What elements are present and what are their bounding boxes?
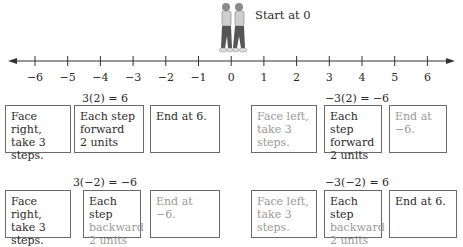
box-text-line: 2 units <box>80 136 138 149</box>
box-text-line: 2 units <box>89 234 135 247</box>
box-text-line: take 3 steps. <box>11 221 65 247</box>
box-text-line: Each step <box>330 110 376 136</box>
step-box: Each stepforward2 units <box>74 105 144 153</box>
box-text-line: 2 units <box>330 234 376 247</box>
box-text-line: Each step <box>330 195 376 221</box>
equation-label: −3(2) = −6 <box>312 92 402 105</box>
step-box: End at −6. <box>150 190 220 238</box>
step-box: Each stepbackward2 units <box>324 190 382 238</box>
tick-label: 0 <box>219 71 243 84</box>
tick-label: 1 <box>252 71 276 84</box>
tick-label: 4 <box>350 71 374 84</box>
box-text-line: forward <box>80 123 138 136</box>
left-arrow-icon <box>8 58 17 64</box>
tick-label: −4 <box>88 71 112 84</box>
box-text-line: End at −6. <box>395 110 441 136</box>
step-box: End at 6. <box>389 190 457 238</box>
number-line <box>0 50 463 90</box>
box-text-line: backward <box>330 221 376 234</box>
box-text-line: Face right, <box>11 110 65 136</box>
tick-label: 2 <box>285 71 309 84</box>
box-text-line: take 3 steps. <box>11 136 65 162</box>
tick-label: −5 <box>56 71 80 84</box>
tick-label: 3 <box>317 71 341 84</box>
box-text-line: take 3 steps. <box>257 123 311 149</box>
box-text-line: End at 6. <box>395 195 451 208</box>
start-label: Start at 0 <box>255 8 311 22</box>
equation-label: −3(−2) = 6 <box>312 176 402 189</box>
tick-label: 5 <box>383 71 407 84</box>
box-text-line: End at 6. <box>156 110 214 123</box>
tick-label: −6 <box>23 71 47 84</box>
box-text-line: End at −6. <box>156 195 214 221</box>
tick-label: −2 <box>154 71 178 84</box>
tick-label: −1 <box>187 71 211 84</box>
step-box: End at −6. <box>389 105 447 153</box>
step-box: Face right,take 3 steps. <box>5 105 71 153</box>
box-text-line: Face right, <box>11 195 65 221</box>
box-text-line: Each step <box>80 110 138 123</box>
step-box: Each stepforward2 units <box>324 105 382 153</box>
box-text-line: take 3 steps. <box>257 208 311 234</box>
step-box: End at 6. <box>150 105 220 153</box>
box-text-line: Face left, <box>257 195 311 208</box>
step-box: Each stepbackward2 units <box>83 190 141 238</box>
tick-label: −3 <box>121 71 145 84</box>
equation-label: 3(2) = 6 <box>60 92 150 105</box>
tick-label: 6 <box>415 71 439 84</box>
box-text-line: backward <box>89 221 135 234</box>
right-arrow-icon <box>446 58 455 64</box>
box-text-line: 2 units <box>330 149 376 162</box>
box-text-line: Face left, <box>257 110 311 123</box>
box-text-line: forward <box>330 136 376 149</box>
step-box: Face right,take 3 steps. <box>5 190 71 238</box>
step-box: Face left,take 3 steps. <box>251 190 317 238</box>
box-text-line: Each step <box>89 195 135 221</box>
step-box: Face left,take 3 steps. <box>251 105 317 153</box>
equation-label: 3(−2) = −6 <box>60 176 150 189</box>
walking-figures-icon <box>216 2 250 54</box>
